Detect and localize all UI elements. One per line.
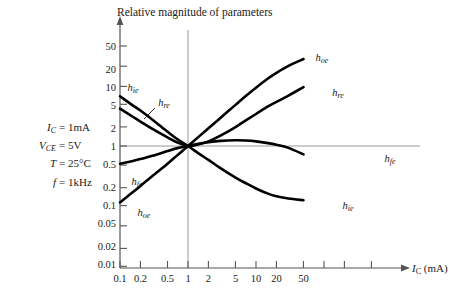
curve-label-h-oe-right: hoe: [316, 52, 329, 65]
condition-vce-symbol: V: [39, 139, 46, 151]
y-axis-ticks: [120, 46, 127, 266]
curve-h-fe: [120, 140, 304, 163]
x-tick-label-0p5: 0.5: [161, 273, 174, 284]
y-tick-label-0p2: 0.2: [80, 182, 116, 193]
condition-temperature-equals: =: [56, 156, 68, 174]
curve-label-h-re-left: hre: [158, 97, 170, 110]
x-tick-label-1: 1: [185, 273, 190, 284]
y-tick-label-0p02: 0.02: [80, 241, 116, 252]
y-tick-label-0p05: 0.05: [80, 217, 116, 228]
y-tick-label-0p01: 0.01: [80, 258, 116, 269]
x-axis-label: IC (mA): [412, 262, 448, 276]
x-tick-label-50: 50: [298, 273, 309, 284]
condition-frequency-equals: =: [56, 175, 68, 193]
y-tick-label-20: 20: [80, 64, 116, 75]
curve-label-h-ie-left: hie: [127, 82, 138, 95]
y-tick-label-5: 5: [80, 99, 116, 110]
x-tick-label-2: 2: [206, 273, 211, 284]
y-tick-label-2: 2: [80, 123, 116, 134]
x-tick-label-0p1: 0.1: [113, 273, 126, 284]
curve-label-h-fe-left: hfe: [131, 176, 142, 189]
curve-label-h-re-right: hre: [332, 87, 344, 100]
chart-figure: Relative magnitude of parameters IC (mA)…: [0, 0, 464, 302]
data-curves: [120, 59, 304, 202]
curve-h-oe: [120, 59, 304, 202]
x-tick-label-10: 10: [251, 273, 262, 284]
curve-h-ie: [120, 96, 304, 200]
condition-ic-equals: =: [56, 120, 68, 138]
y-tick-label-1: 1: [80, 141, 116, 152]
x-tick-label-20: 20: [271, 273, 282, 284]
curve-label-h-oe-left: hoe: [138, 207, 151, 220]
x-axis-ticks: [120, 261, 371, 268]
chart-title: Relative magnitude of parameters: [117, 6, 273, 18]
y-tick-label-0p1: 0.1: [80, 199, 116, 210]
condition-vce-equals: =: [56, 138, 68, 156]
condition-vce-subscript: CE: [46, 144, 56, 153]
y-tick-label-10: 10: [80, 82, 116, 93]
curve-label-h-fe-right: hfe: [384, 153, 395, 166]
curve-label-h-ie-right: hie: [342, 200, 353, 213]
y-tick-label-0p5: 0.5: [80, 158, 116, 169]
x-tick-label-5: 5: [233, 273, 238, 284]
x-tick-label-0p2: 0.2: [134, 273, 147, 284]
y-tick-label-50: 50: [80, 41, 116, 52]
x-axis-arrow: [401, 265, 410, 272]
